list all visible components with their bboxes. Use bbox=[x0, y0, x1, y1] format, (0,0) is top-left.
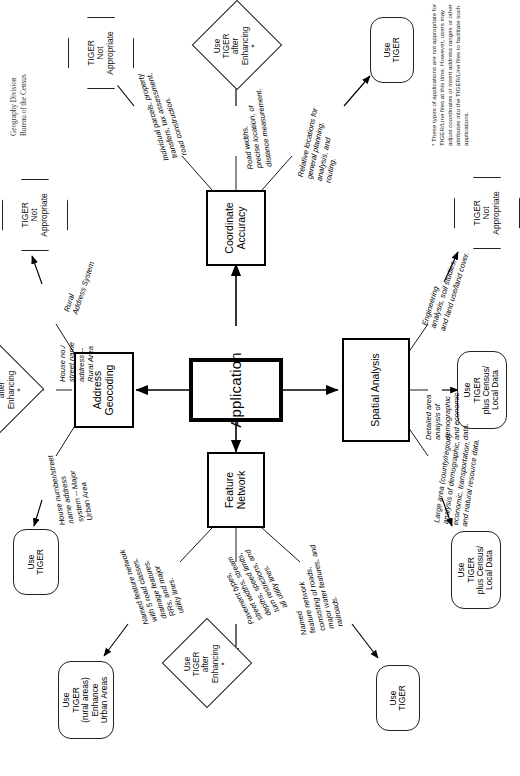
terminal-use-tiger-rural-urban[interactable]: Use TIGER (rural areas) Enhance Urban Ar… bbox=[58, 661, 114, 739]
terminal-label: Use TIGER after Enhancing * bbox=[0, 359, 33, 421]
footnote-text: * These types of applications are not ap… bbox=[430, 0, 470, 146]
terminal-use-tiger-after-enhancing-2[interactable]: Use TIGER after Enhancing * bbox=[0, 359, 29, 421]
terminal-use-tiger-3[interactable]: Use TIGER bbox=[370, 17, 414, 83]
node-application[interactable]: Application bbox=[189, 358, 283, 422]
edge-label-geocoding-rural: House no./ street name address -- Rural … bbox=[58, 312, 95, 382]
terminal-use-tiger-census-local-1[interactable]: Use TIGER plus Census/ Local Data bbox=[451, 531, 501, 609]
node-coordinate-accuracy[interactable]: Coordinate Accuracy bbox=[206, 190, 266, 266]
credit-text: Geography Division Bureau of the Census bbox=[10, 74, 29, 136]
terminal-use-tiger-after-enhancing-1[interactable]: Use TIGER after Enhancing * bbox=[175, 633, 237, 695]
terminal-use-tiger-2[interactable]: Use TIGER bbox=[13, 529, 59, 595]
node-spatial-analysis[interactable]: Spatial Analysis bbox=[342, 338, 410, 442]
terminal-use-tiger-1[interactable]: Use TIGER bbox=[376, 665, 420, 731]
edge-label-spatial-detailed-area: Detailed area analysis of demographic an… bbox=[424, 368, 470, 440]
terminal-label: Use TIGER after Enhancing * bbox=[175, 633, 237, 695]
